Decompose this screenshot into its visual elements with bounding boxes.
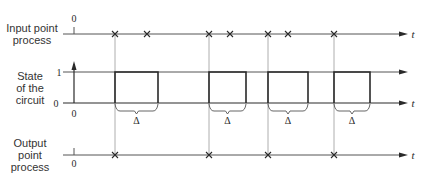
arrowhead-icon [399,32,408,37]
delta-label: Δ [133,115,140,126]
state-zero-label: 0 [54,98,59,109]
arrowhead-icon [399,101,408,106]
delta-brace [209,104,246,114]
input-process-label: Input point process [2,22,62,46]
output-label-line2: point [8,149,52,161]
delta-brace [115,104,158,114]
state-pulse [268,72,308,103]
state-pulse [209,72,246,103]
output-process-label: Output point process [8,137,52,173]
axis-labels: 0t100tΔΔΔΔ0t [54,13,416,169]
state-pulses [115,72,370,103]
state-pulse [334,72,370,103]
arrowhead-icon [399,70,408,75]
state-pulse [115,72,158,103]
output-label-line1: Output [8,137,52,149]
delta-brace [334,104,370,114]
state-label: State of the circuit [8,70,52,106]
delta-brace [268,104,308,114]
input-zero-label: 0 [72,13,77,24]
state-label-line2: of the [8,82,52,94]
arrow-up-icon [72,61,77,70]
output-zero-label: 0 [72,158,77,169]
delta-label: Δ [349,115,356,126]
state-origin-label: 0 [72,108,77,119]
output-t-label: t [411,149,415,161]
point-process-diagram: 0t100tΔΔΔΔ0t [0,0,421,180]
vertical-guide-lines [115,34,334,155]
input-t-label: t [411,28,415,40]
state-one-label: 1 [57,67,62,78]
input-label-line1: Input point [2,22,62,34]
state-label-line1: State [8,70,52,82]
output-label-line3: process [8,161,52,173]
delta-label: Δ [224,115,231,126]
delta-braces [115,104,370,114]
state-label-line3: circuit [8,94,52,106]
state-t-label: t [411,97,415,109]
input-label-line2: process [2,34,62,46]
event-markers [112,31,337,158]
delta-label: Δ [285,115,292,126]
arrowhead-icon [399,153,408,158]
